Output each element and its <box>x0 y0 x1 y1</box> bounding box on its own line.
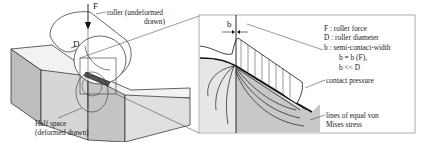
contact-pressure-label: contact pressure <box>326 76 374 85</box>
legend-b-much-less-d: b << D <box>339 63 360 72</box>
half-space-label-line2: (deformed drawn) <box>35 128 89 137</box>
force-label: F <box>93 2 98 11</box>
legend-roller-force: F : roller force <box>324 24 367 33</box>
legend-b-function: b = b (F), <box>339 53 367 62</box>
legend-semi-contact-width: b : semi-contact-width <box>324 43 391 52</box>
half-space-right-face <box>125 95 190 142</box>
legend-roller-diameter: D : roller diameter <box>324 33 379 42</box>
semi-contact-width-label: b <box>227 20 232 29</box>
diameter-label: D <box>73 40 80 49</box>
half-space-label-line1: Half space <box>35 119 66 128</box>
von-mises-label-line2: Mises stress <box>326 120 362 129</box>
roller-label-line1: roller (undeformed <box>107 8 163 17</box>
von-mises-label-line1: lines of equal von <box>326 111 379 120</box>
roller-label-line2: drawn) <box>144 17 165 26</box>
